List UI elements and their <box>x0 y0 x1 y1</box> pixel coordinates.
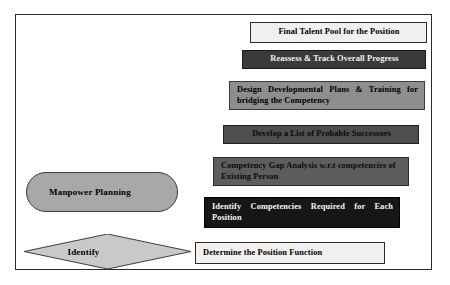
step-label: Identify Competencies Required for Each … <box>212 202 393 224</box>
shape-manpower-planning: Manpower Planning <box>26 172 178 212</box>
step-box-competency-gap-analysis: Competency Gap Analysis w.r.t competenci… <box>213 157 409 186</box>
diamond-outline-icon <box>24 234 191 269</box>
step-box-final-talent-pool: Final Talent Pool for the Position <box>250 22 427 43</box>
step-label: Competency Gap Analysis w.r.t competenci… <box>221 161 402 183</box>
step-box-determine-position-function: Determine the Position Function <box>195 242 385 264</box>
step-box-design-developmental-plans: Design Developmental Plans & Training fo… <box>229 81 425 110</box>
shape-label: Identify <box>67 247 99 257</box>
step-label: Develop a List of Probable Successors <box>231 129 412 140</box>
shape-identify: Identify <box>24 234 191 269</box>
step-label: Reassess & Track Overall Progress <box>250 54 419 65</box>
step-box-identify-competencies-required: Identify Competencies Required for Each … <box>204 197 400 228</box>
step-label: Design Developmental Plans & Training fo… <box>237 85 418 107</box>
step-box-reassess-track-progress: Reassess & Track Overall Progress <box>242 50 426 69</box>
step-label: Determine the Position Function <box>203 248 378 259</box>
shape-label: Manpower Planning <box>49 187 131 197</box>
diagram-canvas: Manpower PlanningIdentify Final Talent P… <box>0 0 450 285</box>
step-box-develop-list-successors: Develop a List of Probable Successors <box>223 125 419 144</box>
step-label: Final Talent Pool for the Position <box>258 27 420 38</box>
